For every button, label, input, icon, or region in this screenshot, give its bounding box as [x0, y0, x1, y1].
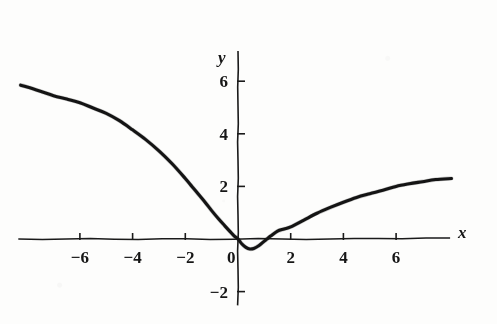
- x-tick-label--6: −6: [71, 248, 89, 267]
- x-tick-label--4: −4: [124, 248, 143, 267]
- y-tick-label-2: 2: [220, 177, 229, 196]
- figure-canvas: −6−4−20246−2246 x y: [0, 0, 497, 324]
- y-axis: [238, 51, 239, 305]
- x-tick-label-0: 0: [227, 248, 236, 267]
- axes-group: [18, 51, 450, 305]
- x-axis-label: x: [457, 223, 467, 242]
- curve-group: [21, 85, 452, 249]
- curve-ink-bleed-0: [21, 85, 452, 249]
- y-axis-label: y: [216, 48, 226, 67]
- x-tick-label-2: 2: [286, 248, 295, 267]
- curve-path-0: [21, 85, 452, 249]
- math-plot: −6−4−20246−2246 x y: [0, 0, 497, 324]
- x-tick-label-6: 6: [392, 248, 401, 267]
- y-tick-label-4: 4: [220, 125, 229, 144]
- y-tick-label-6: 6: [220, 72, 229, 91]
- x-tick-label-4: 4: [339, 248, 348, 267]
- x-tick-label--2: −2: [176, 248, 194, 267]
- y-tick-label--2: −2: [210, 283, 228, 302]
- tick-labels-group: −6−4−20246−2246: [71, 72, 401, 301]
